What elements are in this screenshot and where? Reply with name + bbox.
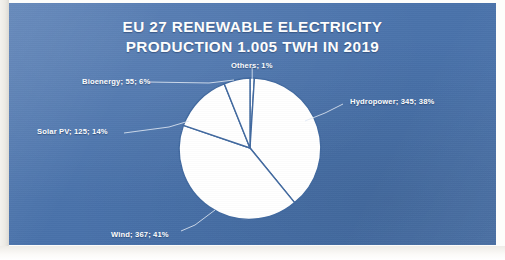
pie-label-wind: Wind; 367; 41% [111, 230, 169, 239]
paper-edge-bottom [0, 246, 505, 260]
leader-line-wind [181, 210, 215, 231]
pie-label-solar-pv: Solar PV; 125; 14% [37, 127, 108, 136]
scanned-page: EU 27 RENEWABLE ELECTRICITY PRODUCTION 1… [0, 0, 505, 260]
leader-line-bioenergy [149, 80, 234, 83]
leader-line-solar-pv [124, 121, 189, 133]
pie-label-bioenergy: Bioenergy; 55; 6% [82, 77, 150, 86]
pie-label-others: Others; 1% [231, 61, 273, 70]
pie-label-hydropower: Hydropower; 345; 38% [350, 97, 434, 106]
pie-chart [9, 3, 496, 245]
chart-panel: EU 27 RENEWABLE ELECTRICITY PRODUCTION 1… [9, 3, 496, 245]
paper-edge-left [0, 0, 9, 260]
